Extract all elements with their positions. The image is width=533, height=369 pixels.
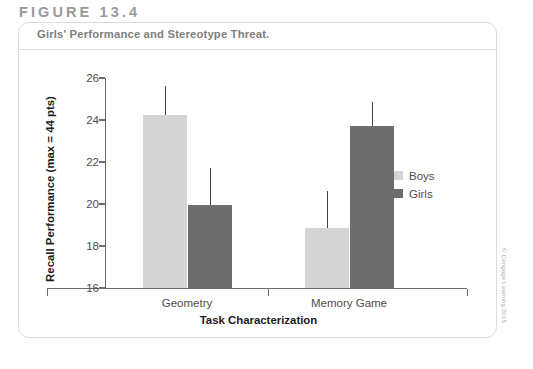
bar-girls-geometry <box>188 205 232 288</box>
legend-swatch-girls <box>394 189 403 198</box>
y-axis-tick <box>99 77 105 78</box>
legend-label-girls: Girls <box>409 188 433 200</box>
y-axis-tick <box>99 161 105 162</box>
y-axis-title: Recall Performance (max = 44 pts) <box>44 94 56 284</box>
x-axis-category-label: Geometry <box>162 297 213 309</box>
y-axis-tick <box>99 119 105 120</box>
figure-number: FIGURE 13.4 <box>19 4 140 20</box>
copyright-credit: © Cengage Learning 2015 <box>501 248 508 323</box>
y-axis-tick-label: 16 <box>73 282 99 294</box>
y-axis-tick <box>99 203 105 204</box>
figure-card: Girls' Performance and Stereotype Threat… <box>18 22 497 338</box>
y-axis-tick-label: 20 <box>73 198 99 210</box>
y-axis-tick-label: 22 <box>73 156 99 168</box>
error-bar-boys-geometry <box>165 86 166 114</box>
legend-item-boys: Boys <box>394 168 484 183</box>
x-axis-tick <box>268 289 269 296</box>
bar-boys-memory-game <box>305 228 349 288</box>
y-axis-line <box>105 78 106 289</box>
error-bar-girls-memory-game <box>372 102 373 126</box>
x-axis-title: Task Characterization <box>19 314 498 326</box>
x-axis-line <box>47 288 467 289</box>
x-axis-category-label: Memory Game <box>311 297 387 309</box>
bar-boys-geometry <box>143 115 187 288</box>
y-axis-tick-label: 24 <box>73 114 99 126</box>
y-axis-tick-label: 26 <box>73 72 99 84</box>
chart-legend: BoysGirls <box>394 168 484 204</box>
y-axis-tick-label: 18 <box>73 240 99 252</box>
legend-label-boys: Boys <box>409 170 435 182</box>
legend-item-girls: Girls <box>394 186 484 201</box>
x-axis-tick <box>467 289 468 296</box>
legend-swatch-boys <box>394 171 403 180</box>
bar-girls-memory-game <box>350 126 394 288</box>
x-axis-tick <box>47 289 48 296</box>
error-bar-girls-geometry <box>210 168 211 205</box>
bar-chart-plot: 161820222426 Recall Performance (max = 4… <box>19 23 498 339</box>
y-axis-tick <box>99 245 105 246</box>
error-bar-boys-memory-game <box>327 191 328 228</box>
y-axis-tick <box>99 287 105 288</box>
